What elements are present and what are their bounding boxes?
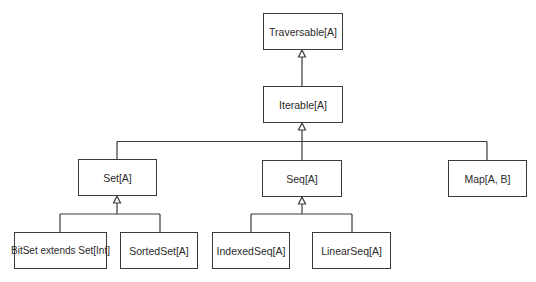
node-iterable: Iterable[A] [263,86,343,123]
node-label: Set[A] [103,172,132,184]
node-seq: Seq[A] [262,160,342,197]
node-bitset: BitSet extends Set[Int] [14,232,107,269]
inheritance-arrow-icon [114,196,121,203]
node-label: BitSet extends Set[Int] [11,245,110,256]
node-indexedseq: IndexedSeq[A] [212,232,290,269]
node-label: Iterable[A] [279,99,327,111]
node-label: Seq[A] [286,173,318,185]
node-label: LinearSeq[A] [321,245,382,257]
node-traversable: Traversable[A] [263,13,343,50]
node-label: SortedSet[A] [129,245,189,257]
node-label: Map[A, B] [464,173,510,185]
node-label: IndexedSeq[A] [217,245,286,257]
inheritance-arrow-icon [299,50,306,57]
node-linearseq: LinearSeq[A] [312,232,391,269]
inheritance-arrow-icon [299,197,306,204]
node-sortedset: SortedSet[A] [120,232,198,269]
node-label: Traversable[A] [269,26,337,38]
inheritance-arrow-icon [299,123,306,130]
node-set: Set[A] [78,159,157,196]
node-map: Map[A, B] [448,160,527,197]
